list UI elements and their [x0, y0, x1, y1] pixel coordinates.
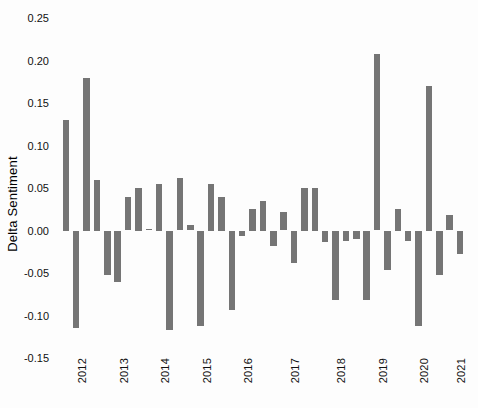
chart-root: Delta Sentiment 0.250.200.150.100.050.00… [0, 0, 478, 408]
y-axis-tick-labels: 0.250.200.150.100.050.00-0.05-0.10-0.15 [0, 18, 53, 358]
bar [146, 229, 152, 231]
bar [446, 215, 452, 230]
bar [280, 212, 286, 231]
y-axis-tick: 0.15 [28, 97, 49, 109]
bar [197, 231, 203, 326]
bar [301, 188, 307, 231]
x-axis-tick: 2017 [289, 358, 301, 383]
bar [104, 231, 110, 275]
x-axis-tick: 2016 [242, 358, 254, 383]
bar [249, 209, 255, 230]
bar [291, 231, 297, 263]
bar [353, 231, 359, 240]
x-axis-tick: 2014 [159, 358, 171, 383]
bar [363, 231, 369, 301]
y-axis-tick: 0.20 [28, 55, 49, 67]
y-axis-tick: 0.00 [28, 225, 49, 237]
y-axis-tick: -0.05 [24, 267, 49, 279]
bar [384, 231, 390, 270]
bar [343, 231, 349, 241]
bar [374, 54, 380, 231]
bar [436, 231, 442, 275]
bar [312, 188, 318, 231]
bar [332, 231, 338, 301]
bar [125, 197, 131, 230]
plot-area [57, 18, 472, 358]
bar [395, 209, 401, 230]
zero-line [57, 18, 472, 19]
bar [229, 231, 235, 310]
bar [94, 180, 100, 231]
x-axis-tick: 2013 [118, 358, 130, 383]
x-axis-tick: 2021 [455, 358, 467, 383]
bar [166, 231, 172, 330]
bar [426, 86, 432, 231]
bar [208, 184, 214, 231]
bar [114, 231, 120, 282]
bar [415, 231, 421, 326]
bar [156, 184, 162, 231]
bar [322, 231, 328, 242]
bar [260, 201, 266, 231]
x-axis-tick: 2020 [418, 358, 430, 383]
x-axis-tick: 2019 [377, 358, 389, 383]
bar [457, 231, 463, 255]
y-axis-tick: -0.15 [24, 352, 49, 364]
y-axis-tick: 0.25 [28, 12, 49, 24]
bar [187, 225, 193, 230]
bar [73, 231, 79, 329]
y-axis-tick: 0.05 [28, 182, 49, 194]
bar [135, 188, 141, 231]
bar [405, 231, 411, 241]
y-axis-tick: -0.10 [24, 310, 49, 322]
bar [270, 231, 276, 246]
x-axis-tick: 2015 [201, 358, 213, 383]
bar [83, 78, 89, 231]
bar [177, 178, 183, 231]
x-axis-tick: 2012 [76, 358, 88, 383]
x-axis-tick-labels: 2012201320142015201620172018201920202021 [57, 358, 472, 408]
y-axis-tick: 0.10 [28, 140, 49, 152]
x-axis-tick: 2018 [335, 358, 347, 383]
bar [218, 197, 224, 231]
bar [239, 231, 245, 237]
bar [63, 120, 69, 231]
